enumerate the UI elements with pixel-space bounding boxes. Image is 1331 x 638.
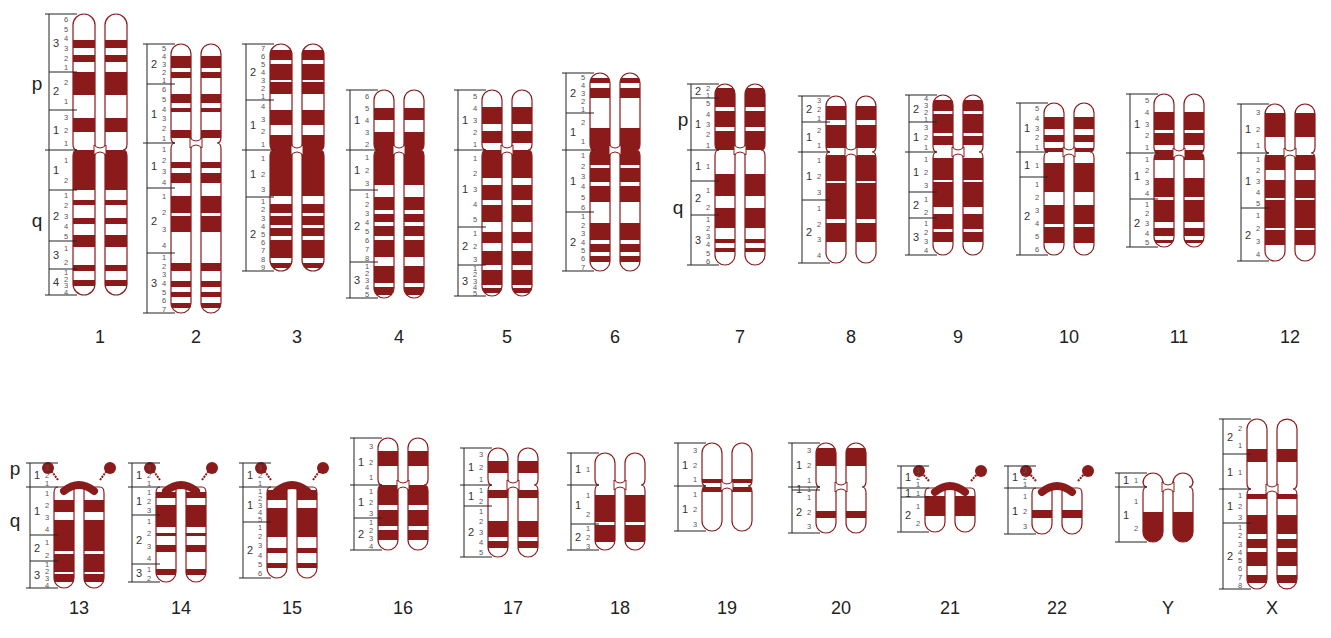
band-label: 3	[817, 96, 821, 105]
band-label: 3	[706, 120, 710, 129]
band-label: 1	[261, 154, 265, 163]
region-label: 1	[1227, 500, 1233, 512]
region-label: 3	[53, 37, 59, 49]
band-label: 1	[473, 140, 477, 149]
band-label: 5	[581, 193, 585, 202]
band-label: 2	[1256, 166, 1260, 175]
region-label: 2	[905, 509, 911, 521]
chromosome-number: 16	[393, 598, 413, 618]
region-label: 1	[468, 461, 474, 473]
region-label: 2	[913, 199, 919, 211]
band-label: 4	[1035, 114, 1039, 123]
region-label: 2	[913, 103, 919, 115]
band-label: 1	[1035, 180, 1039, 189]
band-label: 5	[479, 548, 483, 557]
band-label: 7	[581, 263, 585, 272]
band-label: 1	[1035, 161, 1039, 170]
band-label: 1	[64, 191, 68, 200]
band-label: 2	[64, 201, 68, 210]
region-label: 2	[247, 544, 253, 556]
band-label: 2	[369, 458, 373, 467]
band-label: 1	[1256, 155, 1260, 164]
band-label: 1	[1145, 200, 1149, 209]
band-label: 3	[1238, 513, 1242, 522]
band-label: 3	[365, 179, 369, 188]
band-label: 2	[479, 517, 483, 526]
band-label: 2	[1238, 424, 1242, 433]
band-label: 1	[45, 489, 49, 498]
band-label: 2	[479, 463, 483, 472]
chromosome-22: 1321112322	[1004, 465, 1094, 618]
band-label: 2	[924, 228, 928, 237]
band-label: 3	[693, 446, 697, 455]
region-label: 2	[695, 85, 701, 97]
band-label: 6	[706, 257, 710, 266]
region-label: 1	[250, 119, 256, 131]
band-label: 1	[64, 244, 68, 253]
band-label: 1	[924, 195, 928, 204]
band-label: 3	[1256, 108, 1260, 117]
band-label: 3	[1035, 124, 1039, 133]
band-label: 1	[365, 191, 369, 200]
chromosome-number: 2	[191, 327, 201, 347]
band-label: 2	[147, 574, 151, 583]
band-label: 2	[586, 533, 590, 542]
band-label: 4	[365, 116, 369, 125]
chromosome-number: 19	[717, 598, 737, 618]
p-arm-label-7: p	[678, 109, 689, 130]
band-label: 1	[1023, 492, 1027, 501]
chromosome-number: 14	[171, 598, 191, 618]
band-label: 5	[1035, 104, 1039, 113]
region-label: 3	[34, 569, 40, 581]
chromosome-12: 13211123452123412	[1237, 104, 1317, 347]
band-label: 4	[162, 105, 166, 114]
band-label: 2	[64, 126, 68, 135]
band-label: 4	[1035, 219, 1039, 228]
region-label: 2	[250, 66, 256, 78]
band-label: 2	[261, 127, 265, 136]
band-label: 1	[817, 204, 821, 213]
band-label: 3	[817, 235, 821, 244]
chromosome-13: 1321112342123123413	[26, 462, 116, 618]
region-label: 1	[34, 505, 40, 517]
chromosome-2: 25432116543211123421234312345672	[143, 44, 223, 347]
band-label: 4	[581, 182, 585, 191]
region-label: 1	[682, 503, 688, 515]
band-label: 1	[261, 140, 265, 149]
band-label: 1	[479, 475, 483, 484]
q-arm-label-7: q	[673, 197, 684, 218]
region-label: 2	[1227, 431, 1233, 443]
band-label: 2	[1256, 224, 1260, 233]
band-label: 6	[162, 85, 166, 94]
region-label: 2	[53, 85, 59, 97]
band-label: 5	[1035, 232, 1039, 241]
band-label: 1	[807, 493, 811, 502]
band-label: 4	[365, 218, 369, 227]
band-label: 5	[365, 227, 369, 236]
region-label: 1	[354, 164, 360, 176]
band-label: 3	[924, 237, 928, 246]
band-label: 1	[64, 139, 68, 148]
band-label: 1	[924, 155, 928, 164]
region-label: 1	[1227, 466, 1233, 478]
chromosome-Y: 11112Y	[1115, 473, 1195, 618]
chromosome-1: 36543212211321112212345312412341	[45, 14, 129, 347]
band-label: 2	[64, 78, 68, 87]
band-label: 3	[1145, 120, 1149, 129]
region-label: 1	[358, 456, 364, 468]
region-label: 1	[462, 183, 468, 195]
band-label: 4	[147, 554, 151, 563]
band-label: 2	[817, 105, 821, 114]
band-label: 6	[258, 569, 262, 578]
band-label: 4	[479, 538, 483, 547]
band-label: 2	[581, 162, 585, 171]
chromosome-number: 17	[503, 598, 523, 618]
region-label: 1	[250, 168, 256, 180]
band-label: 1	[1238, 491, 1242, 500]
region-label: 2	[1245, 229, 1251, 241]
band-label: 5	[1256, 199, 1260, 208]
region-label: 1	[462, 114, 468, 126]
chromosome-number: 21	[940, 598, 960, 618]
band-label: 3	[693, 520, 697, 529]
band-label: 5	[473, 92, 477, 101]
